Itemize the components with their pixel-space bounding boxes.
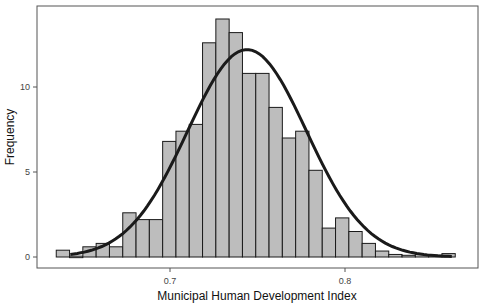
histogram-bar bbox=[229, 33, 242, 257]
histogram-bar bbox=[362, 243, 375, 257]
histogram-bar bbox=[216, 19, 229, 257]
x-tick-label: 0.7 bbox=[164, 276, 177, 286]
histogram-bar bbox=[136, 220, 149, 257]
x-axis-title: Municipal Human Development Index bbox=[157, 289, 356, 303]
histogram-bar bbox=[309, 170, 322, 257]
histogram-bar bbox=[189, 124, 202, 257]
histogram-bar bbox=[322, 228, 335, 257]
histogram-bar bbox=[70, 256, 83, 258]
histogram-bar bbox=[389, 254, 402, 257]
histogram-bar bbox=[269, 107, 282, 257]
histogram-bar bbox=[256, 73, 269, 257]
histogram-bar bbox=[349, 232, 362, 258]
histogram-bar bbox=[123, 213, 136, 257]
histogram-bar bbox=[375, 251, 388, 257]
histogram-bar bbox=[402, 255, 415, 257]
histogram-chart: 0510 0.70.8 Municipal Human Development … bbox=[0, 0, 484, 307]
histogram-bar bbox=[109, 247, 122, 257]
y-tick-label: 10 bbox=[20, 82, 30, 92]
histogram-bar bbox=[56, 250, 69, 257]
x-axis-ticks: 0.70.8 bbox=[164, 268, 352, 286]
histogram-bar bbox=[242, 73, 255, 257]
histogram-bar bbox=[282, 138, 295, 257]
x-tick-label: 0.8 bbox=[339, 276, 352, 286]
y-axis-title: Frequency bbox=[3, 109, 17, 166]
histogram-bar bbox=[149, 220, 162, 257]
histogram-bar bbox=[203, 43, 216, 257]
y-tick-label: 0 bbox=[25, 252, 30, 262]
histogram-bar bbox=[336, 218, 349, 257]
y-tick-label: 5 bbox=[25, 167, 30, 177]
y-axis-ticks: 0510 bbox=[20, 82, 37, 262]
histogram-bar bbox=[296, 131, 309, 257]
